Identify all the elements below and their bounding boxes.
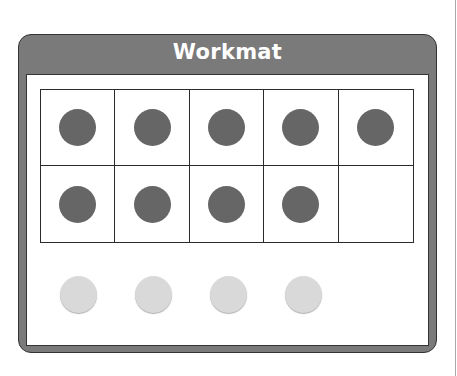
ten-frame bbox=[40, 89, 414, 243]
light-counter[interactable] bbox=[210, 276, 247, 313]
dark-counter[interactable] bbox=[208, 186, 245, 223]
dark-counter[interactable] bbox=[134, 186, 171, 223]
loose-counters bbox=[0, 276, 457, 316]
dark-counter[interactable] bbox=[282, 109, 319, 146]
dark-counter[interactable] bbox=[134, 109, 171, 146]
light-counter[interactable] bbox=[60, 276, 97, 313]
page-edge-divider bbox=[455, 0, 456, 376]
ten-frame-cell[interactable] bbox=[41, 166, 115, 242]
workmat-title: Workmat bbox=[19, 40, 436, 64]
ten-frame-cell[interactable] bbox=[339, 90, 413, 166]
dark-counter[interactable] bbox=[282, 186, 319, 223]
ten-frame-cell[interactable] bbox=[264, 90, 338, 166]
ten-frame-cell[interactable] bbox=[190, 90, 264, 166]
dark-counter[interactable] bbox=[59, 109, 96, 146]
ten-frame-cell[interactable] bbox=[190, 166, 264, 242]
dark-counter[interactable] bbox=[59, 186, 96, 223]
ten-frame-cell[interactable] bbox=[264, 166, 338, 242]
dark-counter[interactable] bbox=[357, 109, 394, 146]
ten-frame-cell[interactable] bbox=[115, 166, 189, 242]
ten-frame-cell[interactable] bbox=[115, 90, 189, 166]
light-counter[interactable] bbox=[285, 276, 322, 313]
ten-frame-cell-empty[interactable] bbox=[339, 166, 413, 242]
dark-counter[interactable] bbox=[208, 109, 245, 146]
ten-frame-cell[interactable] bbox=[41, 90, 115, 166]
light-counter[interactable] bbox=[135, 276, 172, 313]
